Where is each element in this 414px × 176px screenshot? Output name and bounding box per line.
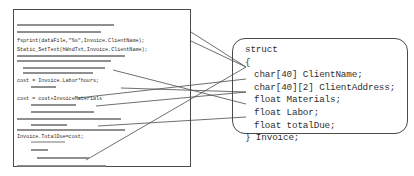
struct-line-labor: float Labor; [245, 107, 407, 120]
diagram-canvas: fsprint(dataFile,"%s",Invoice.ClientName… [0, 0, 414, 176]
redacted-code-line [31, 141, 65, 143]
redacted-code-line [17, 31, 101, 33]
struct-line-client-name: char[40] ClientName; [245, 69, 407, 82]
redacted-code-line [17, 165, 106, 167]
code-line-cost-matls: cost = cost+InvoiceMaterials [17, 96, 102, 102]
redacted-code-line [17, 118, 121, 120]
redacted-code-line [31, 86, 56, 88]
struct-line-struct-keyword: struct [245, 44, 407, 57]
struct-definition-lines: struct{char[40] ClientName;char[40][2] C… [245, 44, 407, 145]
code-line-cost-labor: cost = Invoice.Labor*hours; [17, 78, 99, 84]
struct-definition-panel: struct{char[40] ClientName;char[40][2] C… [232, 38, 408, 134]
redacted-code-line [31, 111, 94, 113]
struct-line-close-brace: } Invoice; [245, 132, 407, 145]
source-code-panel: fsprint(dataFile,"%s",Invoice.ClientName… [13, 9, 191, 167]
code-line-static-set: Static_SetText(hWndTxt,Invoice.ClientNam… [17, 47, 148, 53]
struct-line-total-due: float totalDue; [245, 120, 407, 133]
struct-line-open-brace: { [245, 57, 407, 70]
redacted-code-line [37, 157, 89, 159]
struct-line-materials: float Materials; [245, 94, 407, 107]
redacted-code-line [31, 104, 76, 106]
redacted-code-line [17, 60, 111, 62]
redacted-code-line [23, 67, 105, 69]
redacted-code-line [17, 24, 114, 26]
code-line-total-due: Invoice.TotalDue=cost; [17, 134, 84, 140]
redacted-code-line [23, 72, 93, 74]
code-line-fsprint: fsprint(dataFile,"%s",Invoice.ClientName… [17, 38, 145, 44]
redacted-code-line [31, 124, 67, 126]
struct-line-client-address: char[40][2] ClientAddress; [245, 82, 407, 95]
redacted-code-line [17, 129, 125, 131]
redacted-code-line [31, 149, 48, 151]
redacted-code-line [17, 55, 125, 57]
source-code-lines: fsprint(dataFile,"%s",Invoice.ClientName… [14, 10, 192, 168]
